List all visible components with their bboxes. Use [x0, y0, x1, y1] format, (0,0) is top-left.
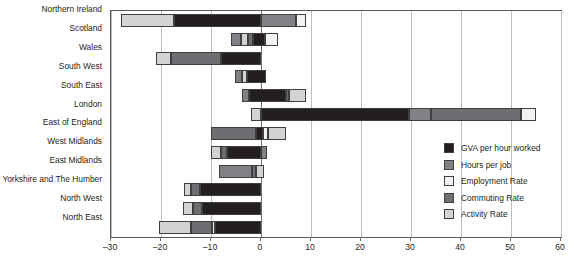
legend-item: GVA per hour worked	[444, 140, 570, 157]
category-label: Yorkshire and The Humber	[2, 174, 102, 184]
bar-segment	[253, 33, 265, 46]
x-tick-label: 60	[555, 242, 565, 253]
bar-segment	[231, 33, 241, 46]
x-tick-label: 0	[258, 242, 263, 253]
bar-row	[111, 89, 561, 102]
bar-segment	[211, 146, 221, 159]
bar-segment	[265, 33, 278, 46]
x-tick-label: 10	[305, 242, 315, 253]
bar-segment	[409, 108, 431, 121]
bar-segment	[296, 14, 306, 27]
bar-segment	[261, 14, 296, 27]
legend-swatch-icon	[444, 209, 454, 219]
bar-segment	[521, 108, 536, 121]
category-label: Northern Ireland	[41, 4, 102, 14]
x-tick-label: –30	[103, 242, 117, 253]
bar-row	[111, 33, 561, 46]
x-tick	[110, 237, 111, 241]
bar-segment	[156, 52, 171, 65]
x-tick-label: –10	[203, 242, 217, 253]
bar-segment	[183, 202, 193, 215]
x-tick	[360, 237, 361, 241]
legend-label: GVA per hour worked	[461, 142, 540, 154]
category-axis-labels: Northern IrelandScotlandWalesSouth WestS…	[0, 0, 107, 236]
legend-label: Employment Rate	[461, 175, 528, 187]
bar-segment	[191, 221, 212, 234]
legend-label: Activity Rate	[461, 208, 508, 220]
x-axis: –30–20–100102030405060	[110, 237, 560, 261]
x-tick	[560, 237, 561, 241]
x-tick	[260, 237, 261, 241]
bar-segment	[191, 183, 200, 196]
category-label: London	[74, 99, 102, 109]
bar-segment	[221, 52, 261, 65]
x-tick-label: 30	[405, 242, 415, 253]
category-label: East Midlands	[49, 155, 102, 165]
bar-segment	[121, 14, 174, 27]
x-tick	[210, 237, 211, 241]
legend-item: Employment Rate	[444, 173, 570, 190]
legend-swatch-icon	[444, 160, 454, 170]
bar-segment	[241, 33, 248, 46]
bar-segment	[256, 165, 264, 178]
bar-row	[111, 52, 561, 65]
bar-segment	[211, 127, 256, 140]
bar-row	[111, 70, 561, 83]
x-tick-label: 40	[455, 242, 465, 253]
bar-segment	[242, 89, 249, 102]
bar-row	[111, 221, 561, 234]
x-tick-label: 50	[505, 242, 515, 253]
bar-segment	[268, 127, 286, 140]
bar-segment	[247, 70, 266, 83]
category-label: Wales	[79, 42, 102, 52]
bar-segment	[227, 146, 261, 159]
legend-swatch-icon	[444, 143, 454, 153]
x-tick	[460, 237, 461, 241]
bar-segment	[193, 202, 202, 215]
bar-segment	[202, 202, 261, 215]
bar-segment	[171, 52, 221, 65]
bar-segment	[219, 165, 252, 178]
bar-row	[111, 14, 561, 27]
legend-label: Commuting Rate	[461, 192, 524, 204]
x-tick-label: –20	[153, 242, 167, 253]
category-label: South West	[59, 61, 102, 71]
bar-row	[111, 127, 561, 140]
x-tick-label: 20	[355, 242, 365, 253]
category-label: North East	[62, 212, 102, 222]
bar-segment	[184, 183, 191, 196]
legend-label: Hours per job	[461, 159, 511, 171]
bar-segment	[215, 221, 261, 234]
bar-segment	[261, 108, 409, 121]
bar-segment	[251, 108, 261, 121]
x-tick	[310, 237, 311, 241]
bar-segment	[200, 183, 261, 196]
bar-segment	[159, 221, 191, 234]
bar-row	[111, 108, 561, 121]
category-label: East of England	[43, 117, 102, 127]
bar-segment	[289, 89, 306, 102]
legend-item: Activity Rate	[444, 206, 570, 223]
bar-segment	[174, 14, 261, 27]
category-label: Scotland	[69, 23, 102, 33]
x-tick	[510, 237, 511, 241]
bar-segment	[235, 70, 242, 83]
legend-swatch-icon	[444, 176, 454, 186]
bar-segment	[256, 127, 263, 140]
legend: GVA per hour workedHours per jobEmployme…	[444, 140, 570, 223]
legend-item: Hours per job	[444, 157, 570, 174]
chart-container: Northern IrelandScotlandWalesSouth WestS…	[0, 0, 574, 270]
bar-segment	[261, 146, 267, 159]
bar-segment	[431, 108, 521, 121]
category-label: South East	[61, 80, 102, 90]
x-tick	[160, 237, 161, 241]
category-label: North West	[60, 193, 102, 203]
legend-swatch-icon	[444, 193, 454, 203]
category-label: West Midlands	[47, 136, 102, 146]
bar-segment	[249, 89, 286, 102]
x-tick	[410, 237, 411, 241]
legend-item: Commuting Rate	[444, 190, 570, 207]
